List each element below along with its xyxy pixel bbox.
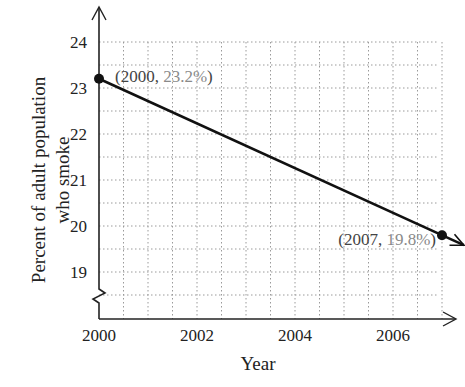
- y-tick-label: 24: [70, 33, 88, 52]
- x-axis-label: Year: [240, 353, 276, 374]
- x-tick-label: 2002: [180, 326, 214, 345]
- x-tick-label: 2000: [82, 326, 116, 345]
- data-series: [94, 74, 464, 245]
- point-annotation: (2000, 23.2%): [115, 67, 213, 86]
- x-tick-label: 2004: [278, 326, 313, 345]
- y-axis-label-line-2: who smoke: [52, 136, 73, 223]
- point-annotation: (2007, 19.8%): [338, 230, 436, 249]
- y-axis-label: Percent of adult population who smoke: [28, 76, 73, 283]
- x-tick-label: 2006: [376, 326, 410, 345]
- x-tick-labels: 2000200220042006: [82, 326, 410, 345]
- y-tick-label: 23: [70, 79, 87, 98]
- axes: [92, 7, 456, 326]
- y-tick-label: 19: [70, 263, 87, 282]
- data-point: [94, 74, 104, 84]
- y-axis-label-line-1: Percent of adult population: [28, 76, 49, 283]
- trend-line: [99, 79, 464, 245]
- chart-canvas: 192021222324 2000200220042006 (2000, 23.…: [0, 0, 465, 387]
- data-point: [437, 230, 447, 240]
